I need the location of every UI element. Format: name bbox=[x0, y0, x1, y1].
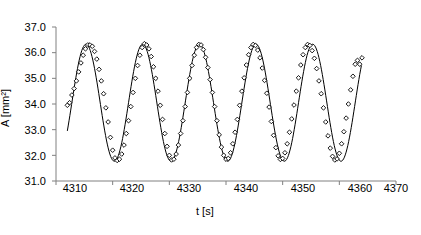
data-point bbox=[190, 63, 195, 68]
data-point bbox=[95, 57, 100, 62]
data-point bbox=[126, 118, 131, 123]
data-point bbox=[287, 130, 292, 135]
data-point bbox=[124, 131, 129, 136]
data-point bbox=[119, 152, 124, 157]
data-point bbox=[299, 63, 304, 68]
data-point bbox=[99, 79, 104, 84]
data-point bbox=[138, 53, 143, 58]
data-point bbox=[104, 106, 109, 111]
data-point bbox=[348, 88, 353, 93]
data-point bbox=[323, 120, 328, 125]
data-point bbox=[135, 63, 140, 68]
data-point bbox=[292, 103, 297, 108]
data-point bbox=[312, 56, 317, 61]
data-point bbox=[151, 64, 156, 69]
data-point bbox=[319, 91, 324, 96]
data-point bbox=[301, 52, 306, 57]
fitted-sine-line bbox=[67, 44, 361, 161]
data-point bbox=[212, 104, 217, 109]
data-point bbox=[133, 76, 138, 81]
data-point bbox=[289, 117, 294, 122]
data-point bbox=[72, 86, 77, 91]
data-point bbox=[165, 144, 170, 149]
data-point bbox=[108, 135, 113, 140]
data-point bbox=[149, 54, 154, 59]
data-point bbox=[317, 79, 322, 84]
plot-svg bbox=[0, 0, 421, 235]
data-point bbox=[110, 148, 115, 153]
data-point bbox=[310, 48, 315, 53]
data-point bbox=[206, 65, 211, 70]
data-point bbox=[294, 89, 299, 94]
data-point bbox=[219, 145, 224, 150]
data-point bbox=[351, 74, 356, 79]
x-tick-marks bbox=[56, 181, 396, 185]
data-point bbox=[339, 141, 344, 146]
data-point bbox=[217, 133, 222, 138]
data-point bbox=[192, 53, 197, 58]
data-point bbox=[208, 77, 213, 82]
data-point bbox=[210, 90, 215, 95]
data-point bbox=[203, 55, 208, 60]
chart-container: A [mm²] 37.0 36.0 35.0 34.0 33.0 32.0 31… bbox=[0, 0, 421, 235]
data-point bbox=[326, 134, 331, 139]
data-point bbox=[131, 90, 136, 95]
data-point bbox=[92, 49, 97, 54]
data-point bbox=[178, 131, 183, 136]
data-point bbox=[321, 106, 326, 111]
data-point bbox=[106, 120, 111, 125]
data-point bbox=[296, 76, 301, 81]
data-point bbox=[122, 143, 127, 148]
data-point bbox=[337, 151, 342, 156]
data-point bbox=[81, 53, 86, 58]
data-point bbox=[283, 150, 288, 155]
data-point bbox=[346, 102, 351, 107]
data-point bbox=[215, 118, 220, 123]
axes-group bbox=[52, 27, 396, 185]
data-point bbox=[201, 47, 206, 52]
data-point bbox=[185, 90, 190, 95]
data-point bbox=[101, 91, 106, 96]
data-point bbox=[183, 104, 188, 109]
data-point bbox=[314, 66, 319, 71]
data-point bbox=[187, 76, 192, 81]
data-point bbox=[344, 116, 349, 121]
data-point bbox=[129, 104, 134, 109]
data-point bbox=[153, 76, 158, 81]
data-point bbox=[158, 103, 163, 108]
data-point bbox=[342, 129, 347, 134]
data-point bbox=[97, 67, 102, 72]
y-tick-marks bbox=[52, 27, 56, 181]
data-point bbox=[285, 141, 290, 146]
data-point bbox=[328, 146, 333, 151]
data-point bbox=[156, 89, 161, 94]
data-point bbox=[360, 56, 365, 61]
data-point bbox=[181, 118, 186, 123]
data-point bbox=[176, 143, 181, 148]
data-point bbox=[160, 117, 165, 122]
data-point bbox=[163, 131, 168, 136]
